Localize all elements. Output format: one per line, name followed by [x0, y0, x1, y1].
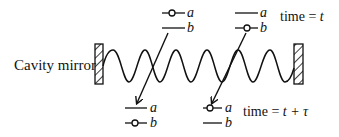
atom-trajectory-arrow-left — [137, 33, 168, 103]
left-cavity-mirror — [95, 44, 103, 84]
cavity-field-wave — [103, 50, 294, 82]
level-label-a: a — [260, 6, 267, 20]
electron-marker — [244, 25, 250, 31]
time-variable: t + τ — [283, 104, 308, 119]
atom-bottom-right — [203, 105, 222, 123]
electron-marker — [132, 120, 138, 126]
level-label-b: b — [150, 116, 157, 130]
level-label-a: a — [225, 101, 232, 115]
atom-trajectory-arrow-right — [212, 33, 246, 103]
atom-bottom-left — [125, 108, 147, 126]
cavity-mirror-label: Cavity mirror — [14, 58, 96, 73]
electron-marker — [169, 10, 175, 16]
electron-marker — [207, 105, 213, 111]
time-variable: t — [320, 9, 324, 24]
time-label-text: time = — [243, 104, 283, 119]
atom-top-left — [162, 10, 185, 28]
level-label-b: b — [260, 21, 267, 35]
level-label-a: a — [187, 6, 194, 20]
right-cavity-mirror — [294, 44, 303, 84]
level-label-a: a — [150, 101, 157, 115]
level-label-b: b — [187, 21, 194, 35]
time-label-bottom: time = t + τ — [243, 105, 308, 119]
level-label-b: b — [225, 116, 232, 130]
time-label-text: time = — [280, 9, 320, 24]
atom-top-right — [235, 13, 258, 31]
time-label-top: time = t — [280, 10, 324, 24]
